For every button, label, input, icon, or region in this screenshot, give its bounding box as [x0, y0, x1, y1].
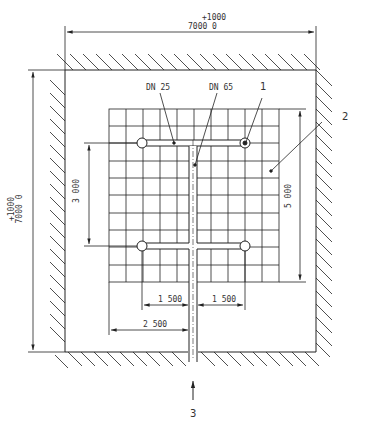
left-offset-dim: 1 500 — [158, 296, 182, 304]
room-width-tolerance: +1000 — [202, 14, 226, 22]
sprinkler-layout-diagram: +1000 7000 0 +1000 7000 0 DN 25 DN 65 3 … — [0, 0, 378, 434]
wall-to-main-dim: 2 500 — [143, 321, 167, 329]
main-pipe-label: DN 65 — [209, 84, 233, 92]
room-width-value: 7000 0 — [188, 23, 217, 31]
sprinkler-row-spacing-dim: 3 000 — [73, 179, 81, 203]
grid-length-dim: 5 000 — [285, 184, 293, 208]
diagram-drawing — [0, 0, 378, 434]
callout-sprinkler: 1 — [260, 82, 266, 92]
callout-grid: 2 — [342, 112, 348, 122]
right-offset-dim: 1 500 — [212, 296, 236, 304]
leader-lines — [160, 93, 322, 172]
room-length-value: 7000 0 — [16, 195, 24, 224]
branch-pipe-label: DN 25 — [146, 84, 170, 92]
callout-supply: 3 — [190, 409, 196, 419]
